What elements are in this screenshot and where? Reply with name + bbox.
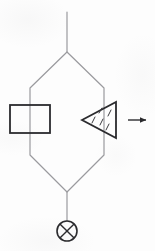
crossed-circle bbox=[57, 221, 77, 241]
diagram-canvas bbox=[0, 0, 155, 251]
triangle-component bbox=[82, 102, 116, 138]
schematic-diagram bbox=[0, 0, 155, 251]
